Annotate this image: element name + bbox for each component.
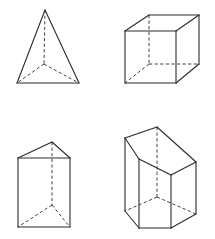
visible-edge [171, 214, 196, 228]
pentagonal-prism [125, 127, 196, 228]
visible-edge [125, 127, 157, 138]
visible-edge [176, 15, 199, 31]
triangular-prism [18, 142, 70, 227]
hidden-edge [52, 205, 70, 227]
visible-edge [125, 138, 139, 159]
hidden-edge [157, 197, 196, 214]
hidden-edge [18, 205, 52, 227]
visible-edge [171, 162, 196, 175]
visible-edge [139, 159, 171, 175]
solids-diagram [0, 0, 215, 239]
hidden-edge [125, 64, 149, 83]
visible-edge [18, 142, 52, 158]
hidden-edge [44, 10, 45, 64]
visible-edge [176, 64, 199, 83]
visible-edge [157, 127, 196, 162]
visible-edge [125, 211, 139, 228]
cube [125, 15, 199, 83]
visible-edge [52, 142, 70, 158]
hidden-edge [125, 197, 157, 211]
visible-edge [45, 10, 79, 83]
tetrahedron [17, 10, 79, 83]
visible-edge [17, 10, 45, 83]
visible-edge [125, 15, 149, 31]
hidden-edge [44, 64, 79, 83]
